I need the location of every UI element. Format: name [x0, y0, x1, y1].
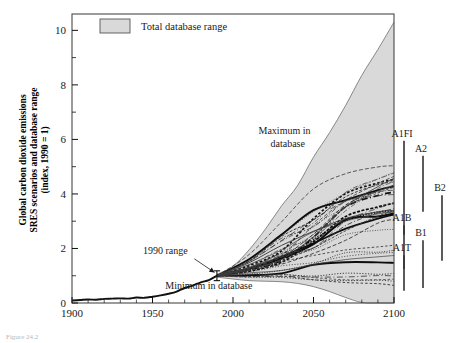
annotation-maximum-in-database-line1: Maximum in: [259, 125, 311, 136]
scenario-label-a1fi: A1FI: [391, 128, 412, 139]
annotation-minimum-in-database: Minimum in database: [165, 280, 253, 291]
scenario-label-a1t: A1T: [393, 242, 411, 253]
scenario-range-markers: A1FIA2B2A1BB1A1T: [391, 128, 445, 291]
annotation-maximum-in-database-line2: database: [271, 138, 306, 149]
y-tick-label: 8: [61, 79, 67, 91]
y-tick-label: 6: [61, 133, 67, 145]
legend-label-total-database-range: Total database range: [141, 21, 227, 32]
x-tick-label: 2000: [222, 307, 245, 319]
scenario-label-a2: A2: [415, 143, 427, 154]
x-tick-label: 1950: [142, 307, 165, 319]
y-axis-title-line1: Global carbon dioxide emissions: [18, 94, 28, 225]
legend: Total database range: [100, 19, 227, 33]
y-tick-label: 10: [55, 24, 67, 36]
y-axis-title-line3: (index, 1990 = 1): [40, 126, 51, 193]
y-tick-label: 2: [61, 242, 67, 254]
x-tick-label: 1900: [61, 307, 84, 319]
y-tick-label: 4: [61, 188, 67, 200]
x-tick-label: 2050: [303, 307, 326, 319]
co2-emissions-chart: 0246810 19001950200020502100 Global carb…: [0, 0, 453, 343]
scenario-label-b1: B1: [415, 227, 427, 238]
figure-caption: Figure 24.2: [6, 333, 39, 341]
annotation-1990-range: 1990 range: [143, 245, 188, 256]
y-axis-title-line2: SRES scenarios and database range: [29, 87, 39, 232]
figure-container: 0246810 19001950200020502100 Global carb…: [0, 0, 453, 343]
legend-swatch-total-database-range: [100, 19, 130, 33]
y-axis-title: Global carbon dioxide emissions SRES sce…: [18, 87, 51, 232]
scenario-label-b2: B2: [434, 182, 446, 193]
scenario-label-a1b: A1B: [393, 212, 412, 223]
x-tick-label: 2100: [383, 307, 406, 319]
